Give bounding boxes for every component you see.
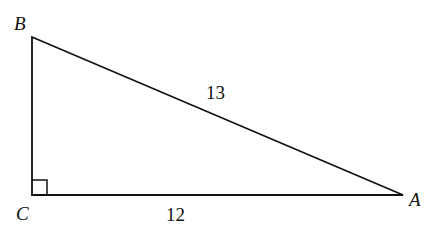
triangle-abc xyxy=(32,37,403,195)
vertex-label-c: C xyxy=(16,203,29,224)
side-label-hypotenuse: 13 xyxy=(206,82,225,103)
vertex-label-b: B xyxy=(14,13,26,34)
side-label-base: 12 xyxy=(166,204,185,225)
right-angle-marker xyxy=(32,180,47,195)
triangle-diagram: B C A 13 12 xyxy=(0,0,436,231)
vertex-label-a: A xyxy=(407,189,421,210)
